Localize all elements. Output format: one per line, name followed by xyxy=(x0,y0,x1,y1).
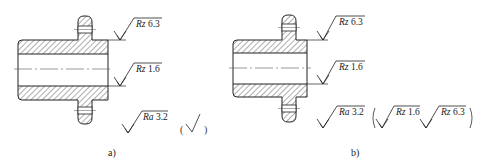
svg-text:): ) xyxy=(204,124,207,136)
view-a-part-section xyxy=(14,16,126,124)
svg-text:Rz 1.6: Rz 1.6 xyxy=(395,107,420,117)
basic-roughness-check-icon xyxy=(186,114,200,132)
svg-text:Rz 6.3: Rz 6.3 xyxy=(135,19,160,29)
roughness-triangle-icon xyxy=(114,31,126,40)
roughness-symbol-a-bore: Rz 1.6 xyxy=(114,63,162,86)
drawing-canvas: Rz 6.3 Rz 1.6 Ra 3.2 ( ) a) Rz 6.3 xyxy=(0,0,484,163)
roughness-symbol-a-outer: Rz 6.3 xyxy=(114,18,162,40)
caption-a: a) xyxy=(108,147,116,159)
svg-text:(: ( xyxy=(180,124,184,136)
open-paren-icon xyxy=(373,108,375,128)
svg-text:Rz 6.3: Rz 6.3 xyxy=(440,107,465,117)
view-b-part-section xyxy=(229,15,328,122)
close-paren-icon xyxy=(470,108,472,128)
roughness-triangle-icon xyxy=(317,119,329,128)
svg-text:Ra 3.2: Ra 3.2 xyxy=(142,112,168,122)
svg-text:Ra 3.2: Ra 3.2 xyxy=(338,107,364,117)
bracket-roughness-note-b: Rz 1.6 Rz 6.3 xyxy=(373,106,472,128)
svg-text:Rz 6.3: Rz 6.3 xyxy=(338,17,363,27)
roughness-symbol-b-bore: Rz 1.6 xyxy=(317,61,365,84)
simplified-roughness-note-a: ( ) xyxy=(180,114,207,136)
svg-text:Rz 1.6: Rz 1.6 xyxy=(135,64,160,74)
roughness-symbol-b-general: Ra 3.2 xyxy=(317,106,365,128)
svg-text:Rz 1.6: Rz 1.6 xyxy=(338,62,363,72)
caption-b: b) xyxy=(351,147,359,159)
roughness-triangle-icon xyxy=(122,124,134,133)
roughness-symbol-a-general: Ra 3.2 xyxy=(122,111,168,133)
roughness-symbol-b-outer: Rz 6.3 xyxy=(317,16,365,40)
